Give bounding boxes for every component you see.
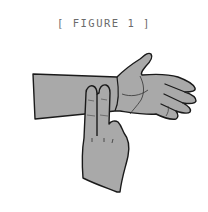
wrist-hand-illustration [33,53,196,119]
pulse-check-illustration [0,0,208,212]
